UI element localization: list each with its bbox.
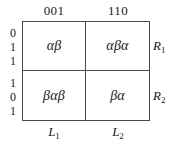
row-label-r2-sub: 2 [161,95,166,105]
table-row: αβ αβα [23,22,149,71]
bit-1-0: 1 [10,76,16,90]
bit-0-0: 0 [10,26,16,40]
row-label-r2-base: R [153,88,161,103]
matrix-table-figure: 001 110 0 1 1 1 0 1 αβ αβα βαβ βα R1 R2 … [0,0,174,143]
bit-1-2: 1 [10,104,16,118]
column-label-l2: L2 [86,123,150,141]
bit-0-1: 1 [10,40,16,54]
bit-1-1: 0 [10,90,16,104]
column-label-l1: L1 [22,123,86,141]
matrix-grid: αβ αβα βαβ βα [22,21,150,121]
column-header-0: 001 [22,3,86,19]
column-header-1: 110 [86,3,150,19]
table-row: βαβ βα [23,71,149,120]
row-label-r1-base: R [153,38,161,53]
column-label-l2-sub: 2 [119,131,124,141]
bit-0-2: 1 [10,54,16,68]
row-label-r2: R2 [153,87,174,105]
row-label-r1: R1 [153,37,174,55]
cell-0-0: αβ [23,22,86,70]
cell-1-1: βα [86,71,149,120]
row-bits-1: 1 0 1 [6,72,20,122]
cell-1-0: βαβ [23,71,86,120]
row-bits-0: 0 1 1 [6,22,20,72]
row-label-r1-sub: 1 [161,45,166,55]
cell-0-1: αβα [86,22,149,70]
column-label-l1-sub: 1 [55,131,60,141]
